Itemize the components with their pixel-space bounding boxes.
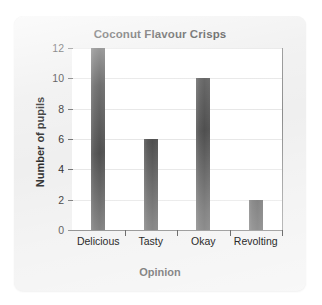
chart-page: Coconut Flavour Crisps Number of pupils … — [0, 0, 322, 305]
x-axis-tick-label: Tasty — [125, 235, 178, 247]
y-axis-tick-label: 12 — [42, 48, 64, 49]
y-axis-tick-mark — [68, 230, 73, 231]
plot-area: 024681012 — [72, 48, 283, 230]
bar — [91, 48, 105, 230]
bar — [249, 200, 263, 230]
y-axis-tick-mark — [68, 78, 73, 79]
x-axis-tick-label: Okay — [177, 235, 230, 247]
bar — [196, 78, 210, 230]
x-axis-tick-label: Revolting — [230, 235, 283, 247]
y-axis-title: Number of pupils — [34, 72, 46, 212]
y-axis-tick-label: 10 — [42, 78, 64, 79]
y-axis-tick-label: 6 — [42, 139, 64, 140]
x-axis-tick-mark — [282, 230, 283, 236]
y-axis-tick-mark — [68, 139, 73, 140]
y-axis-tick-label: 0 — [42, 230, 64, 231]
chart-card: Coconut Flavour Crisps Number of pupils … — [14, 16, 306, 291]
y-axis-tick-label: 8 — [42, 109, 64, 110]
y-axis-tick-mark — [68, 169, 73, 170]
x-axis-title: Opinion — [14, 266, 306, 278]
y-axis-tick-label: 2 — [42, 200, 64, 201]
y-axis-tick-mark — [68, 200, 73, 201]
y-axis-tick-label: 4 — [42, 169, 64, 170]
bar — [144, 139, 158, 230]
chart-title: Coconut Flavour Crisps — [14, 28, 306, 40]
y-axis-tick-mark — [68, 109, 73, 110]
x-axis-tick-label: Delicious — [72, 235, 125, 247]
y-axis-tick-mark — [68, 48, 73, 49]
